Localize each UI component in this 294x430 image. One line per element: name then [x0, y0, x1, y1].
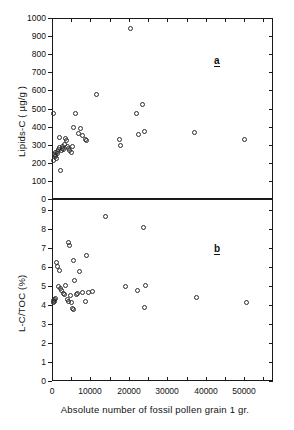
panel-b-x-tick [187, 377, 188, 381]
data-point [103, 214, 108, 219]
panel-b-y-tick [48, 248, 52, 249]
panel-b-y-tick [48, 210, 52, 211]
panel-b-y-axis-title: L-C/TOC (%) [16, 275, 27, 332]
data-point [143, 283, 148, 288]
panel-b-x-tick [110, 377, 111, 381]
data-point [141, 225, 146, 230]
data-point [142, 305, 147, 310]
panel-b-x-tick [206, 377, 207, 381]
data-point [83, 299, 88, 304]
panel-b-x-tick [225, 377, 226, 381]
panel-b: b 012345678901000020000300004000050000 [0, 0, 294, 430]
panel-b-y-tick [48, 381, 52, 382]
data-point [53, 296, 58, 301]
panel-b-y-tick-right [269, 381, 273, 382]
panel-b-y-tick-right [269, 286, 273, 287]
data-point [135, 288, 140, 293]
figure-scatter-lipids-pollen: a 01002003004005006007008009001000 b 012… [0, 0, 294, 430]
panel-b-y-tick-right [269, 229, 273, 230]
panel-a-y-axis-title: Lipids-C ( µg/g ) [16, 85, 27, 156]
panel-b-x-tick [167, 377, 168, 381]
panel-b-y-tick-right [269, 267, 273, 268]
panel-b-x-tick [71, 377, 72, 381]
panel-b-y-tick-label: 8 [0, 225, 46, 234]
panel-b-y-tick-label: 7 [0, 244, 46, 253]
panel-b-plot-frame [52, 199, 273, 381]
panel-b-x-tick-label: 50000 [218, 387, 270, 396]
panel-b-y-tick [48, 286, 52, 287]
data-point [57, 268, 62, 273]
data-point [77, 269, 82, 274]
panel-b-y-tick-right [269, 305, 273, 306]
panel-b-y-tick-right [269, 248, 273, 249]
panel-b-x-tick [263, 377, 264, 381]
panel-b-y-tick [48, 305, 52, 306]
panel-b-y-tick [48, 362, 52, 363]
panel-b-y-tick-right [269, 362, 273, 363]
panel-b-letter: b [214, 244, 220, 255]
panel-b-x-tick [148, 377, 149, 381]
panel-b-y-tick-label: 2 [0, 339, 46, 348]
panel-b-y-tick [48, 267, 52, 268]
panel-b-y-tick-label: 1 [0, 358, 46, 367]
panel-b-y-tick [48, 324, 52, 325]
panel-b-x-tick [129, 377, 130, 381]
panel-b-y-tick [48, 343, 52, 344]
panel-b-x-tick [244, 377, 245, 381]
panel-b-y-tick-label: 6 [0, 263, 46, 272]
x-axis-title: Absolute number of fossil pollen grain 1… [20, 404, 290, 415]
data-point [194, 295, 199, 300]
panel-b-y-tick-right [269, 210, 273, 211]
data-point [244, 300, 249, 305]
panel-b-y-tick-label: 9 [0, 206, 46, 215]
data-point [123, 284, 128, 289]
panel-b-y-tick [48, 229, 52, 230]
panel-b-x-tick [52, 377, 53, 381]
panel-b-y-tick-right [269, 324, 273, 325]
panel-b-x-tick [90, 377, 91, 381]
panel-b-y-tick-label: 0 [0, 377, 46, 386]
data-point [69, 300, 74, 305]
panel-b-y-tick-right [269, 343, 273, 344]
